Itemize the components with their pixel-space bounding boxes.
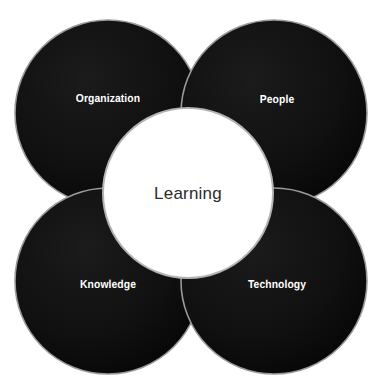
circle-label-technology: Technology (248, 279, 306, 291)
learning-venn-diagram: Organization People Knowledge Technology… (0, 0, 380, 391)
circle-label-organization: Organization (76, 93, 140, 105)
circle-label-knowledge: Knowledge (80, 279, 136, 291)
circle-label-people: People (260, 94, 294, 106)
center-label-learning: Learning (154, 184, 222, 204)
